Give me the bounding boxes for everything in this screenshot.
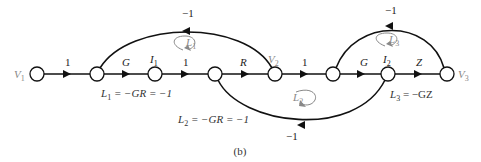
node-6 xyxy=(326,67,340,81)
gain-label: Z xyxy=(416,56,423,68)
node-label-v3: V3 xyxy=(458,68,469,83)
node-v1 xyxy=(30,67,44,81)
signal-flow-graph: V1 I1 V2 I2 V3 1 G 1 R 1 G Z −1 −1 −1 L1… xyxy=(0,0,481,162)
node-v2 xyxy=(268,67,282,81)
gain-label: G xyxy=(360,56,368,68)
equation-l1: L1 = −GR = −1 xyxy=(100,87,172,102)
gain-label: R xyxy=(239,56,247,68)
gain-label: 1 xyxy=(302,56,308,68)
gain-label: 1 xyxy=(183,56,189,68)
equation-l2: L2 = −GR = −1 xyxy=(177,113,249,128)
node-i2 xyxy=(381,67,395,81)
loop-indicator-l3: L3 xyxy=(376,33,399,48)
node-i1 xyxy=(148,67,162,81)
svg-text:L3: L3 xyxy=(388,33,399,48)
node-2 xyxy=(90,67,104,81)
figure-caption: (b) xyxy=(234,145,247,158)
feedback-gain-lower: −1 xyxy=(286,130,298,142)
svg-text:L2: L2 xyxy=(292,91,303,106)
node-label-i1: I1 xyxy=(149,53,158,68)
node-4 xyxy=(208,67,222,81)
node-label-v2: V2 xyxy=(268,53,279,68)
node-v3 xyxy=(440,67,454,81)
loop-indicator-l2: L2 xyxy=(292,90,316,107)
loop-indicator-l1: L1 xyxy=(174,36,196,51)
node-label-v1: V1 xyxy=(14,68,25,83)
node-label-i2: I2 xyxy=(382,53,391,68)
equation-l3: L3 = −GZ xyxy=(389,88,433,103)
gain-label: 1 xyxy=(65,56,71,68)
gain-label: G xyxy=(122,56,130,68)
feedback-gain-upper-left: −1 xyxy=(182,7,194,19)
feedback-gain-upper-right: −1 xyxy=(385,4,397,16)
